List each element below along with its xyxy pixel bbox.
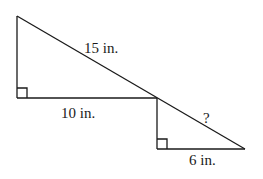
label-big-base: 10 in. [61, 105, 95, 121]
small-triangle-right-angle-marker [157, 139, 167, 149]
label-small-hypotenuse: ? [203, 110, 210, 126]
shared-hypotenuse-line [17, 16, 245, 149]
similar-triangles-diagram: 15 in. 10 in. ? 6 in. [0, 0, 263, 179]
label-small-base: 6 in. [189, 152, 216, 168]
large-triangle-right-angle-marker [17, 88, 27, 98]
label-big-hypotenuse: 15 in. [84, 40, 118, 56]
